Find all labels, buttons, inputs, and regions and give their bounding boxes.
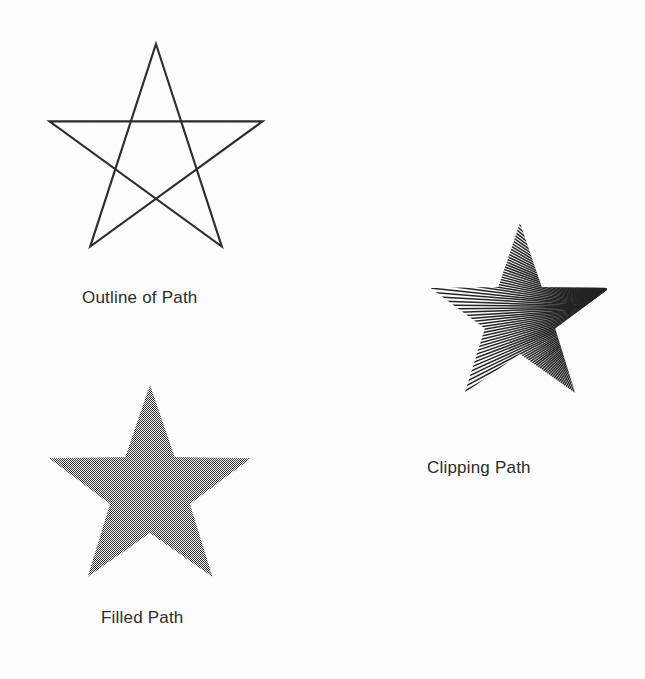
- pentagram-outline-path: [49, 44, 262, 247]
- fan-line: [460, 0, 612, 307]
- fan-line: [283, 0, 612, 307]
- fan-line: [241, 307, 612, 580]
- clipping-star-graphic: [424, 213, 624, 445]
- fan-line: [401, 307, 612, 679]
- figure-outline-of-path: [34, 36, 278, 280]
- fan-line: [298, 0, 612, 307]
- fan-line: [223, 307, 612, 553]
- fan-line: [229, 307, 612, 562]
- fan-line: [275, 0, 612, 307]
- fan-line: [383, 0, 612, 307]
- fan-line: [241, 34, 612, 307]
- fan-line: [248, 307, 612, 588]
- filled-star-path: [49, 385, 251, 577]
- fan-line: [470, 307, 612, 679]
- fan-line: [254, 307, 612, 596]
- fan-line: [330, 307, 612, 670]
- fan-line: [235, 307, 612, 571]
- figure-clipping-path: [424, 213, 624, 445]
- fan-line: [440, 307, 612, 679]
- fan-line: [356, 0, 612, 307]
- fan-line: [374, 307, 612, 679]
- fan-line: [261, 10, 612, 307]
- fan-line: [306, 307, 612, 650]
- figure-filled-path: [34, 388, 278, 603]
- fan-line: [411, 307, 612, 679]
- outline-star-graphic: [34, 36, 278, 280]
- filled-star-graphic: [34, 388, 278, 603]
- fan-line: [430, 307, 612, 679]
- caption-outline-of-path: Outline of Path: [82, 288, 197, 308]
- fan-line: [290, 0, 612, 307]
- fan-line: [314, 307, 612, 657]
- fan-line: [392, 0, 612, 307]
- fan-line: [420, 307, 612, 679]
- fan-line: [235, 43, 612, 307]
- fan-line: [229, 52, 612, 307]
- fan-line: [268, 2, 612, 307]
- fan-line: [248, 26, 612, 307]
- fan-line: [330, 0, 612, 307]
- caption-clipping-path: Clipping Path: [427, 458, 531, 478]
- fan-line: [254, 18, 612, 307]
- fan-line: [356, 307, 612, 679]
- fan-line: [365, 0, 612, 307]
- fan-line: [322, 307, 612, 664]
- fan-line: [314, 0, 612, 307]
- fan-line: [223, 61, 612, 307]
- fan-line: [401, 0, 612, 307]
- fan-line: [347, 0, 612, 307]
- fan-line: [306, 0, 612, 307]
- caption-filled-path: Filled Path: [101, 608, 184, 628]
- fan-line: [374, 0, 612, 307]
- fan-line: [322, 0, 612, 307]
- fan-line: [261, 307, 612, 604]
- fan-line: [470, 0, 612, 307]
- fan-line: [338, 0, 612, 307]
